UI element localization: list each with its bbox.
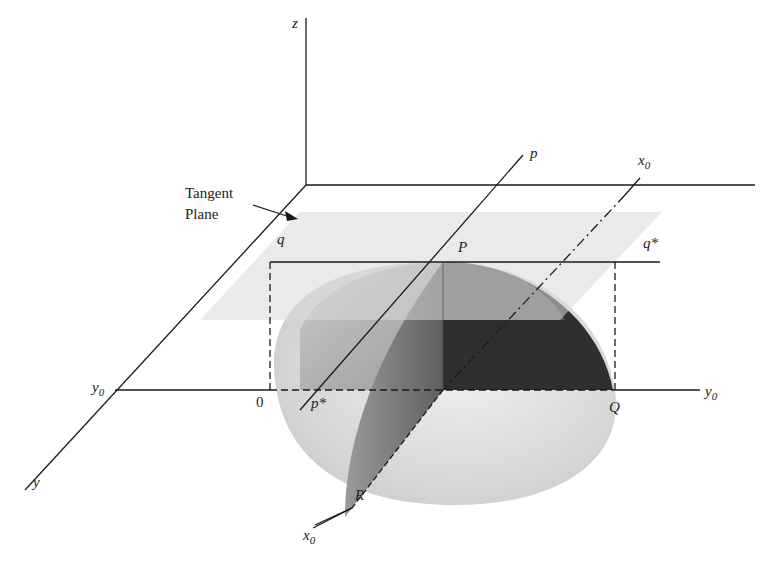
x0-top-label: x0 bbox=[637, 152, 651, 171]
q-line-label: q bbox=[277, 231, 285, 247]
point-R-label: R bbox=[354, 487, 364, 503]
y-axis bbox=[25, 185, 306, 490]
z-axis-label: z bbox=[291, 15, 298, 31]
y-axis-label: y bbox=[31, 474, 40, 490]
tangent-plane bbox=[200, 212, 662, 320]
tangent-plane-diagram: Tangent Plane z y y0 y0 x0 x0 p p* q q* … bbox=[0, 0, 775, 565]
p-star-label: p* bbox=[310, 395, 327, 411]
x0-bottom-label: x0 bbox=[302, 527, 316, 546]
point-P-label: P bbox=[457, 239, 467, 255]
tangent-plane-label-line2: Plane bbox=[185, 206, 219, 222]
q-star-label: q* bbox=[643, 235, 659, 251]
tangent-plane-label-line1: Tangent bbox=[185, 185, 234, 201]
origin-label: 0 bbox=[256, 394, 264, 410]
y0-right-label: y0 bbox=[703, 383, 718, 402]
point-Q-label: Q bbox=[609, 399, 620, 415]
y0-left-label: y0 bbox=[90, 379, 105, 398]
p-line-label: p bbox=[529, 145, 538, 161]
x0-line-bottom-ext bbox=[313, 508, 352, 528]
x0-line-top bbox=[625, 178, 640, 195]
